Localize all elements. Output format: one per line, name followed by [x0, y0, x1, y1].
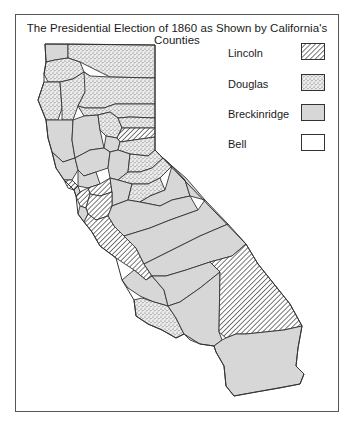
county-san-bernardino [210, 244, 302, 338]
county-sierra-plumas [118, 117, 155, 128]
breckinridge-stipple-swatch-icon [301, 104, 325, 121]
legend-item-lincoln: Lincoln [214, 43, 334, 63]
california-county-map [0, 0, 361, 429]
legend-item-bell: Bell [214, 134, 334, 154]
legend-item-douglas: Douglas [214, 74, 334, 94]
legend-label-breckinridge: Breckinridge [228, 108, 289, 120]
county-shasta [78, 72, 155, 108]
legend-label-lincoln: Lincoln [228, 47, 263, 59]
douglas-stipple-swatch-icon [301, 74, 325, 91]
bell-blank-swatch-icon [301, 134, 325, 151]
county-mendocino [46, 120, 75, 162]
legend-label-bell: Bell [228, 138, 246, 150]
legend-label-douglas: Douglas [228, 78, 268, 90]
lincoln-hatch-swatch-icon [301, 43, 325, 60]
counties [38, 44, 304, 396]
legend-item-breckinridge: Breckinridge [214, 104, 334, 124]
